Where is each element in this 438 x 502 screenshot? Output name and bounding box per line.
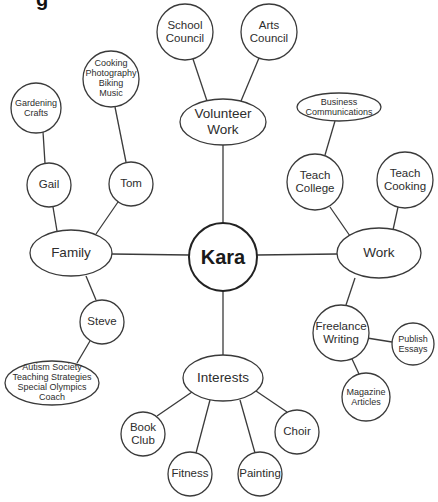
edge-interests-choir [256, 391, 287, 412]
edge-college-business [325, 121, 335, 155]
edge-interests-book-club [157, 392, 192, 416]
edge-kara-family [112, 254, 189, 255]
node-volunteer-work-shape[interactable] [180, 99, 266, 145]
node-painting-shape[interactable] [238, 452, 282, 496]
node-publish-essays-shape[interactable] [392, 323, 434, 365]
node-family-shape[interactable] [30, 230, 112, 276]
node-tom-hobbies-shape[interactable] [83, 51, 139, 107]
node-school-council-shape[interactable] [157, 4, 213, 60]
edge-family-steve [86, 276, 96, 300]
edge-gail-gardening [43, 132, 45, 163]
node-business-communications-shape[interactable] [297, 93, 381, 121]
node-gardening-crafts-shape[interactable] [11, 83, 61, 133]
edge-volunteer-arts-council [241, 58, 259, 101]
edge-interests-fitness [196, 400, 210, 453]
node-fitness-shape[interactable] [168, 452, 212, 496]
node-freelance-writing-shape[interactable] [313, 305, 369, 361]
edge-interests-painting [240, 400, 255, 453]
edge-work-teach-college [330, 207, 350, 236]
node-teach-college-shape[interactable] [287, 154, 343, 210]
node-teach-cooking-shape[interactable] [377, 152, 433, 208]
edge-freelance-publish [367, 338, 392, 342]
node-steve-activities-shape[interactable] [5, 361, 99, 405]
node-shapes [5, 4, 434, 496]
edge-kara-work [257, 254, 337, 255]
node-book-club-shape[interactable] [121, 412, 165, 456]
edge-steve-activities [77, 341, 90, 363]
edge-family-gail [53, 207, 57, 231]
node-arts-council-shape[interactable] [241, 4, 297, 60]
node-tom-shape[interactable] [109, 162, 153, 206]
node-steve-shape[interactable] [80, 300, 124, 344]
edge-tom-hobbies [115, 107, 126, 162]
node-work-shape[interactable] [337, 228, 421, 278]
edge-work-teach-cooking [393, 207, 398, 230]
node-kara-shape[interactable] [189, 223, 257, 291]
edge-work-freelance [346, 278, 355, 305]
node-interests-shape[interactable] [183, 355, 263, 401]
node-gail-shape[interactable] [27, 163, 71, 207]
edge-family-tom [96, 202, 118, 234]
edge-volunteer-school-council [193, 59, 207, 101]
node-choir-shape[interactable] [275, 410, 319, 454]
node-magazine-articles-shape[interactable] [342, 373, 390, 421]
mind-map-diagram [0, 0, 438, 502]
edge-freelance-magazine [352, 359, 359, 374]
